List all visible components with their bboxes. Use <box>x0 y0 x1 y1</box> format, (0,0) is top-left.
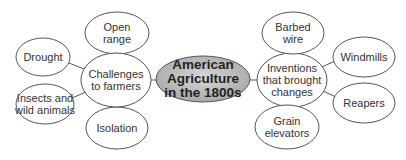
label-center: American Agriculture in the 1800s <box>156 56 250 102</box>
label-inventions: Inventions that brought changes <box>255 53 329 107</box>
label-barbed-wire: Barbed wire <box>262 12 324 54</box>
label-windmills: Windmills <box>333 37 395 77</box>
label-drought: Drought <box>16 38 70 76</box>
label-open-range: Open range <box>85 12 149 54</box>
label-grain-elevators: Grain elevators <box>255 105 319 149</box>
label-reapers: Reapers <box>333 83 395 123</box>
label-insects: Insects and wild animals <box>14 84 76 124</box>
label-isolation: Isolation <box>86 107 148 149</box>
label-challenges: Challenges to farmers <box>81 53 151 107</box>
